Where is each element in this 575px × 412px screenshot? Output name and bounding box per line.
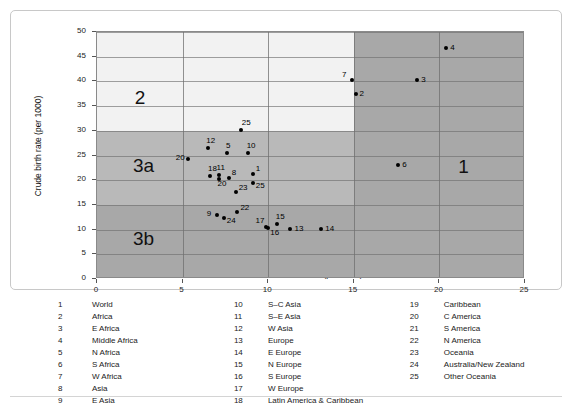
legend-item-20: 20C America — [410, 312, 562, 322]
legend-item-2: 2Africa — [58, 312, 234, 322]
data-point-label-5: 5 — [226, 142, 230, 150]
x-tick-mark — [524, 279, 525, 283]
page-root: Crude death rate (per 1000) Crude birth … — [0, 0, 575, 412]
y-tick-label-35: 35 — [64, 100, 86, 109]
y-tick-label-0: 0 — [64, 273, 86, 282]
x-tick-label-20: 20 — [426, 285, 450, 294]
legend-item-13: 13Europe — [234, 336, 410, 346]
legend-item-number: 11 — [234, 312, 268, 322]
x-tick-label-10: 10 — [255, 285, 279, 294]
gridline-horizontal — [97, 254, 523, 255]
legend-item-name: E Europe — [268, 348, 301, 358]
legend-item-number: 10 — [234, 300, 268, 310]
zone-label-3a: 3a — [133, 155, 154, 177]
data-point-25b — [251, 181, 255, 185]
legend-item-22: 22N America — [410, 336, 562, 346]
data-point-label-16: 16 — [270, 229, 279, 237]
legend-item-number: 8 — [58, 384, 92, 394]
legend-item-number: 24 — [410, 360, 444, 370]
data-point-label-18: 18 — [208, 165, 217, 173]
legend-item-name: S Europe — [268, 372, 301, 382]
legend-item-18: 18Latin America & Caribbean — [234, 396, 410, 406]
data-point-label-25: 25 — [242, 119, 251, 127]
legend-item-16: 16S Europe — [234, 372, 410, 382]
legend-item-17: 17W Europe — [234, 384, 410, 394]
legend-item-name: W Africa — [92, 372, 122, 382]
gridline-horizontal — [97, 106, 523, 107]
legend-item-name: Europe — [268, 336, 294, 346]
zone-label-3b: 3b — [133, 228, 154, 250]
x-tick-mark — [96, 279, 97, 283]
legend-item-number: 9 — [58, 396, 92, 406]
y-tick-label-30: 30 — [64, 125, 86, 134]
data-point-label-12: 12 — [206, 137, 215, 145]
legend-item-4: 4Middle Africa — [58, 336, 234, 346]
data-point-label-20: 20 — [176, 154, 185, 162]
legend-item-25: 25Other Oceania — [410, 372, 562, 382]
legend-item-name: Australia/New Zealand — [444, 360, 524, 370]
legend-item-name: Caribbean — [444, 300, 481, 310]
legend-item-name: S–E Asia — [268, 312, 300, 322]
data-point-label-4: 4 — [450, 44, 454, 52]
y-tick-label-40: 40 — [64, 75, 86, 84]
legend-item-number: 3 — [58, 324, 92, 334]
gridline-vertical — [268, 32, 269, 277]
legend-item-14: 14E Europe — [234, 348, 410, 358]
data-point-label-23: 23 — [239, 184, 248, 192]
legend-item-6: 6S Africa — [58, 360, 234, 370]
x-tick-mark — [267, 279, 268, 283]
legend-item-number: 4 — [58, 336, 92, 346]
legend-item-number: 2 — [58, 312, 92, 322]
y-tick-label-25: 25 — [64, 150, 86, 159]
x-tick-label-5: 5 — [170, 285, 194, 294]
y-tick-label-45: 45 — [64, 51, 86, 60]
legend-item-number: 21 — [410, 324, 444, 334]
legend-item-15: 15N Europe — [234, 360, 410, 370]
y-tick-label-50: 50 — [64, 26, 86, 35]
y-tick-label-20: 20 — [64, 174, 86, 183]
legend-item-number: 17 — [234, 384, 268, 394]
x-tick-label-25: 25 — [512, 285, 536, 294]
gridline-horizontal — [97, 230, 523, 231]
y-tick-label-10: 10 — [64, 224, 86, 233]
data-point-label-10: 10 — [247, 142, 256, 150]
legend-column-2: 10S–C Asia11S–E Asia12W Asia13Europe14E … — [234, 300, 410, 400]
legend-divider — [10, 396, 562, 397]
legend-item-number: 6 — [58, 360, 92, 370]
data-point-label-25b: 25 — [256, 182, 265, 190]
x-tick-label-15: 15 — [341, 285, 365, 294]
x-tick-mark — [353, 279, 354, 283]
x-tick-mark — [438, 279, 439, 283]
legend-item-name: N Europe — [268, 360, 302, 370]
legend-item-name: S–C Asia — [268, 300, 301, 310]
data-point-label-6: 6 — [402, 161, 406, 169]
gridline-horizontal — [97, 81, 523, 82]
legend-item-name: N America — [444, 336, 481, 346]
legend-column-3: 19Caribbean20C America21S America22N Ame… — [410, 300, 562, 400]
y-axis-title: Crude birth rate (per 1000) — [33, 56, 43, 236]
data-point-label-3: 3 — [421, 76, 425, 84]
legend-item-number: 5 — [58, 348, 92, 358]
gridline-horizontal — [97, 180, 523, 181]
legend-item-name: Asia — [92, 384, 108, 394]
gridline-horizontal — [97, 205, 523, 206]
legend-item-21: 21S America — [410, 324, 562, 334]
data-point-12 — [206, 146, 210, 150]
data-point-label-2: 2 — [360, 90, 364, 98]
data-point-label-17: 17 — [255, 217, 264, 225]
data-point-5 — [225, 151, 229, 155]
legend-item-3: 3E Africa — [58, 324, 234, 334]
legend-item-name: World — [92, 300, 113, 310]
legend-item-23: 23Oceania — [410, 348, 562, 358]
data-point-label-13: 13 — [294, 225, 303, 233]
x-tick-label-0: 0 — [84, 285, 108, 294]
zone-label-2: 2 — [135, 87, 146, 109]
legend-column-1: 1World2Africa3E Africa4Middle Africa5N A… — [58, 300, 234, 400]
data-point-11 — [217, 173, 221, 177]
legend: 1World2Africa3E Africa4Middle Africa5N A… — [10, 300, 562, 400]
data-point-20 — [186, 157, 190, 161]
legend-item-name: S America — [444, 324, 480, 334]
legend-item-name: W Asia — [268, 324, 293, 334]
legend-item-8: 8Asia — [58, 384, 234, 394]
legend-item-number: 19 — [410, 300, 444, 310]
